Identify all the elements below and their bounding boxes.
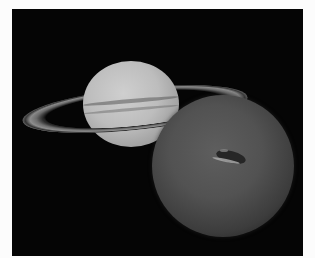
neptune-planet: [152, 95, 294, 237]
image-frame: Grayscale montage of Saturn with its rin…: [0, 0, 315, 258]
space-background: [12, 9, 303, 256]
neptune-bright-cloud: [220, 149, 228, 152]
